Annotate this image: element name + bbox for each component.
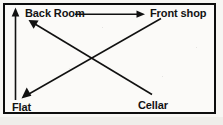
arrow-back-room-to-front-shop bbox=[75, 11, 145, 18]
node-label-front-shop: Front shop bbox=[150, 7, 206, 19]
arrow-flat-to-back-room bbox=[12, 8, 20, 101]
room-flow-diagram: Back Room Front shop Flat Cellar bbox=[0, 0, 223, 125]
node-label-back-room: Back Room bbox=[25, 7, 85, 19]
node-label-flat: Flat bbox=[12, 101, 31, 113]
node-label-cellar: Cellar bbox=[138, 99, 168, 111]
scan-edge-shadow bbox=[0, 117, 223, 125]
